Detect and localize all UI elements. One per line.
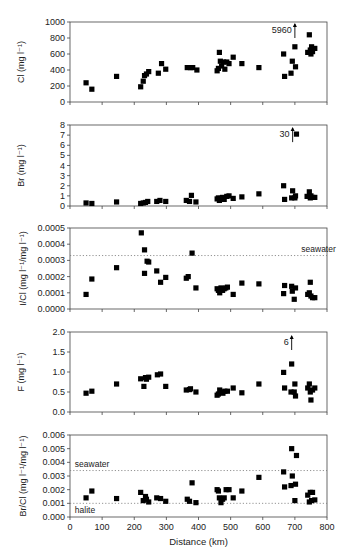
data-point <box>89 201 94 206</box>
data-point <box>293 393 298 398</box>
data-point <box>145 199 150 204</box>
data-point <box>292 381 297 386</box>
data-point <box>294 132 299 137</box>
data-point <box>193 500 198 505</box>
x-tick-label: 100 <box>95 522 110 532</box>
multi-panel-scatter-chart: 02004006008001000Cl (mg l⁻¹)596001234567… <box>0 0 344 555</box>
data-point <box>312 46 317 51</box>
data-point <box>189 480 194 485</box>
data-point <box>193 199 198 204</box>
data-point <box>256 475 261 480</box>
data-point <box>312 385 317 390</box>
y-tick-label: 0.0000 <box>37 304 65 314</box>
y-tick-label: 6 <box>60 140 65 150</box>
data-point <box>239 280 244 285</box>
data-point <box>288 71 293 76</box>
data-point <box>282 74 287 79</box>
x-tick-label: 300 <box>159 522 174 532</box>
data-point <box>193 285 198 290</box>
data-point <box>142 271 147 276</box>
data-point <box>157 198 162 203</box>
data-point <box>293 285 298 290</box>
panel-br: 012345678Br (mg l⁻¹)30 <box>16 120 327 211</box>
y-tick-label: 3 <box>60 171 65 181</box>
y-axis-label: Br (mg l⁻¹) <box>16 144 26 187</box>
y-tick-label: 0.0003 <box>37 255 65 265</box>
data-point <box>158 496 163 501</box>
data-point <box>290 188 295 193</box>
y-tick-label: 0.0002 <box>37 272 65 282</box>
data-point <box>83 495 88 500</box>
data-point <box>292 498 297 503</box>
data-point <box>222 67 227 72</box>
y-tick-label: 2.0 <box>52 327 65 337</box>
y-tick-label: 5 <box>60 150 65 160</box>
y-tick-label: 800 <box>50 33 65 43</box>
data-point <box>141 384 146 389</box>
data-point <box>222 495 227 500</box>
data-point <box>146 259 151 264</box>
data-point <box>89 488 94 493</box>
data-point <box>281 469 286 474</box>
data-point <box>239 488 244 493</box>
y-tick-label: 0.5 <box>52 387 65 397</box>
data-point <box>159 61 164 66</box>
data-point <box>139 230 144 235</box>
y-tick-label: 200 <box>50 81 65 91</box>
data-point <box>158 371 163 376</box>
y-tick-label: 400 <box>50 65 65 75</box>
data-point <box>156 71 161 76</box>
data-point <box>89 87 94 92</box>
data-point <box>194 67 199 72</box>
data-point <box>289 446 294 451</box>
panel-cl: 02004006008001000Cl (mg l⁻¹)5960 <box>16 17 327 107</box>
y-tick-label: 1 <box>60 191 65 201</box>
y-tick-label: 0 <box>60 201 65 211</box>
data-point <box>216 488 221 493</box>
y-axis-label: Br/Cl (mg l⁻¹/mg l⁻¹) <box>18 436 28 517</box>
data-point <box>289 361 294 366</box>
x-tick-label: 800 <box>319 522 334 532</box>
y-tick-label: 1.5 <box>52 347 65 357</box>
data-point <box>288 483 293 488</box>
data-point <box>193 389 198 394</box>
data-point <box>310 490 315 495</box>
data-point <box>89 276 94 281</box>
data-point <box>225 389 230 394</box>
x-tick-label: 700 <box>287 522 302 532</box>
data-point <box>256 65 261 70</box>
y-tick-label: 0.002 <box>42 485 65 495</box>
data-point <box>83 200 88 205</box>
x-tick-label: 500 <box>223 522 238 532</box>
data-point <box>146 375 151 380</box>
arrow-up-icon <box>290 335 294 339</box>
data-point <box>293 193 298 198</box>
y-tick-label: 0.0005 <box>37 223 65 233</box>
y-tick-label: 0.004 <box>42 457 65 467</box>
x-axis-label: Distance (km) <box>169 536 228 547</box>
data-point <box>292 44 297 49</box>
data-point <box>281 370 286 375</box>
data-point <box>293 482 298 487</box>
data-point <box>294 453 299 458</box>
data-point <box>239 390 244 395</box>
y-tick-label: 0.003 <box>42 471 65 481</box>
y-tick-label: 4 <box>60 161 65 171</box>
y-tick-label: 0.0001 <box>37 288 65 298</box>
data-point <box>83 80 88 85</box>
panel-f: 0.00.51.01.52.0F (mg l⁻¹)6 <box>16 327 327 417</box>
y-tick-label: 2 <box>60 181 65 191</box>
data-point <box>281 183 286 188</box>
data-point <box>282 283 287 288</box>
y-tick-label: 1000 <box>45 17 65 27</box>
data-point <box>163 199 168 204</box>
y-tick-label: 0.0 <box>52 407 65 417</box>
data-point <box>290 473 295 478</box>
y-tick-label: 8 <box>60 120 65 130</box>
arrow-up-icon <box>291 127 295 131</box>
data-point <box>292 297 297 302</box>
data-point <box>83 292 88 297</box>
data-point <box>225 285 230 290</box>
y-tick-label: 1.0 <box>52 367 65 377</box>
arrow-up-icon <box>293 23 297 27</box>
